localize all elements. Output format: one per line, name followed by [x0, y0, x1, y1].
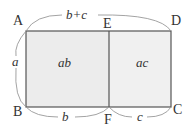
label-point-a: A [13, 13, 24, 28]
label-bottom-left-dimension: b [62, 109, 69, 124]
label-point-c: C [173, 102, 182, 117]
label-bottom-right-dimension: c [137, 109, 143, 124]
label-left-dimension: a [12, 54, 19, 69]
label-point-e: E [103, 16, 112, 31]
label-area-ab: ab [58, 55, 72, 70]
brace-top [26, 15, 62, 31]
label-top-dimension: b+c [66, 7, 87, 22]
brace-left [16, 31, 26, 107]
label-point-d: D [171, 13, 181, 28]
label-area-ac: ac [136, 55, 149, 70]
diagram: A D E B C F b+c a b c ab ac [0, 0, 190, 131]
label-point-f: F [104, 112, 112, 127]
label-point-b: B [13, 104, 22, 119]
